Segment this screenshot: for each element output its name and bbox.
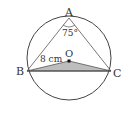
center-point-o (68, 60, 71, 63)
angle-arc-a (63, 25, 75, 27)
label-o: O (65, 48, 73, 59)
angle-label: 75° (62, 28, 78, 38)
label-b: B (16, 65, 24, 78)
geometry-diagram: A B C O 75° 8 cm (0, 0, 131, 117)
length-label: 8 cm (40, 54, 63, 64)
label-c: C (113, 67, 121, 80)
label-a: A (64, 6, 74, 19)
